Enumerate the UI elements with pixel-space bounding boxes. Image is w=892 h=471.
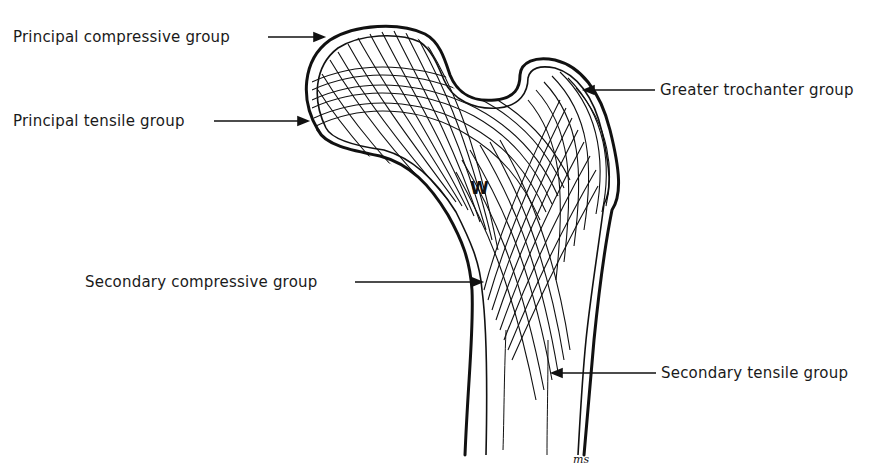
label-principal-tensile-group: Principal tensile group — [13, 112, 185, 130]
femur-illustration: W ms — [0, 0, 892, 471]
label-greater-trochanter-group: Greater trochanter group — [660, 81, 854, 99]
femur-outline — [306, 26, 618, 455]
label-secondary-compressive-group: Secondary compressive group — [85, 273, 317, 291]
arrowhead-icon — [314, 33, 324, 41]
femur-trabecular-diagram: W ms Principal compressive group Princip… — [0, 0, 892, 471]
medullary-lines — [503, 330, 548, 455]
wards-triangle-marker: W — [470, 178, 489, 198]
label-secondary-tensile-group: Secondary tensile group — [661, 364, 848, 382]
label-principal-compressive-group: Principal compressive group — [13, 28, 230, 46]
artist-signature: ms — [573, 453, 589, 466]
arrowhead-icon — [552, 369, 562, 377]
arrowhead-icon — [298, 117, 308, 125]
